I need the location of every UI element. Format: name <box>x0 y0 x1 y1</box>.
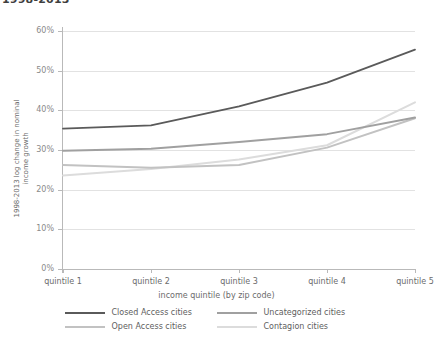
x-tick-label: quintile 2 <box>116 277 186 286</box>
x-tick-mark <box>239 269 240 273</box>
y-tick-label: 10% <box>14 225 54 233</box>
legend-swatch <box>65 326 105 328</box>
y-tick-label: 40% <box>14 106 54 114</box>
legend-label: Open Access cities <box>112 322 187 331</box>
legend-row: Closed Access citiesUncategorized cities <box>0 308 433 317</box>
legend-label: Uncategorized cities <box>264 308 346 317</box>
plot-area <box>63 31 415 269</box>
chart-title: 1998-2013 <box>2 0 70 6</box>
x-tick-mark <box>151 269 152 273</box>
legend-item[interactable]: Open Access cities <box>65 322 217 331</box>
x-tick-mark <box>415 269 416 273</box>
x-tick-label: quintile 3 <box>204 277 274 286</box>
legend-item[interactable]: Contagion cities <box>217 322 369 331</box>
x-tick-label: quintile 1 <box>28 277 98 286</box>
y-tick-label: 60% <box>14 27 54 35</box>
chart-legend: Closed Access citiesUncategorized cities… <box>0 308 433 336</box>
x-axis-title: income quintile (by zip code) <box>0 291 433 300</box>
series-line <box>63 117 415 150</box>
legend-label: Closed Access cities <box>112 308 192 317</box>
y-tick-label: 30% <box>14 146 54 154</box>
x-tick-label: quintile 5 <box>380 277 438 286</box>
legend-item[interactable]: Closed Access cities <box>65 308 217 317</box>
x-tick-mark <box>327 269 328 273</box>
x-tick-mark <box>63 269 64 273</box>
y-tick-label: 0% <box>14 265 54 273</box>
legend-item[interactable]: Uncategorized cities <box>217 308 369 317</box>
legend-swatch <box>65 312 105 314</box>
legend-row: Open Access citiesContagion cities <box>0 322 433 331</box>
series-line <box>63 50 415 129</box>
x-tick-label: quintile 4 <box>292 277 362 286</box>
y-tick-label: 20% <box>14 186 54 194</box>
legend-swatch <box>217 326 257 328</box>
legend-swatch <box>217 312 257 314</box>
legend-label: Contagion cities <box>264 322 328 331</box>
series-lines <box>63 31 415 269</box>
y-tick-label: 50% <box>14 67 54 75</box>
